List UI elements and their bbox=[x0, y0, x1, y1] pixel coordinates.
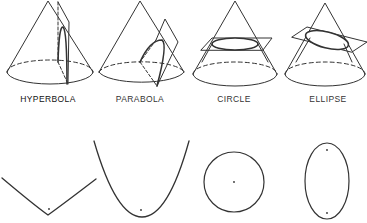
hyperbola-curve bbox=[2, 178, 96, 215]
ellipse-cone bbox=[285, 3, 367, 86]
ellipse-focus-top bbox=[326, 149, 328, 151]
circle-cone bbox=[193, 1, 277, 86]
parabola-focus bbox=[140, 209, 142, 211]
conic-sections-diagram bbox=[0, 0, 367, 223]
circle-curve bbox=[204, 152, 264, 212]
label-parabola: PARABOLA bbox=[116, 94, 164, 104]
label-hyperbola: HYPERBOLA bbox=[20, 94, 76, 104]
hyperbola-focus bbox=[48, 208, 50, 210]
circle-center bbox=[233, 181, 235, 183]
parabola-cone bbox=[99, 1, 184, 86]
hyperbola-cone bbox=[7, 1, 93, 84]
label-ellipse: ELLIPSE bbox=[309, 94, 346, 104]
ellipse-curve bbox=[305, 143, 349, 219]
ellipse-focus-bottom bbox=[326, 212, 328, 214]
parabola-curve bbox=[94, 141, 189, 217]
label-circle: CIRCLE bbox=[217, 94, 251, 104]
